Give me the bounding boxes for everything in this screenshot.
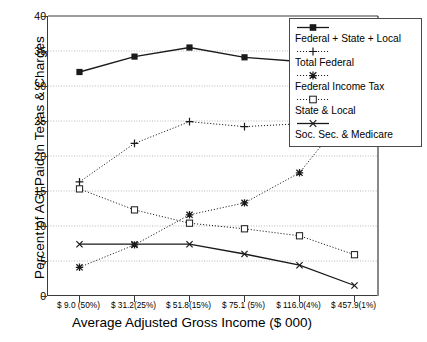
- legend-marker-filled-square-icon: [294, 22, 417, 33]
- y-axis-tick-mark: [41, 296, 47, 297]
- data-point-marker: [241, 54, 247, 60]
- legend-marker-plus-icon: [294, 46, 417, 57]
- legend-item-label: Soc. Sec. & Medicare: [294, 129, 417, 141]
- legend-item-label: Federal + State + Local: [294, 33, 417, 45]
- x-axis-tick-mark: [79, 296, 80, 302]
- data-point-marker: [76, 178, 84, 186]
- x-axis-tick-label: $ 457.9(1%): [331, 301, 376, 309]
- x-axis-tick-label: $ 51.8(15%): [166, 301, 211, 309]
- data-point-marker: [296, 169, 303, 176]
- data-point-marker: [296, 233, 302, 239]
- series-state-local: [76, 186, 357, 258]
- data-point-marker: [186, 211, 193, 218]
- x-axis-tick-label: $ 9.0 (50%): [57, 301, 100, 309]
- data-point-marker: [131, 54, 137, 60]
- x-axis-tick-label: $ 116.0(4%): [276, 301, 321, 309]
- x-axis-title: Average Adjusted Gross Income ($ 000): [0, 315, 384, 330]
- legend-item[interactable]: Federal + State + Local: [294, 22, 417, 45]
- data-point-marker: [76, 186, 82, 192]
- data-point-marker: [351, 252, 357, 258]
- data-point-marker: [309, 72, 317, 80]
- data-point-marker: [241, 123, 249, 131]
- legend-item[interactable]: Total Federal: [294, 46, 417, 69]
- x-axis-tick-mark: [299, 296, 300, 302]
- data-point-marker: [131, 140, 139, 148]
- series-line: [80, 244, 355, 285]
- data-point-marker: [351, 282, 357, 288]
- legend-item-label: Total Federal: [294, 57, 417, 69]
- legend-marker-cross-icon: [294, 118, 417, 129]
- data-point-marker: [310, 24, 317, 31]
- x-axis-tick-mark: [189, 296, 190, 302]
- legend-item-label: State & Local: [294, 105, 417, 117]
- data-point-marker: [186, 118, 194, 126]
- data-point-marker: [76, 69, 82, 75]
- series-soc-sec-medicare: [76, 241, 357, 289]
- legend-item[interactable]: State & Local: [294, 94, 417, 117]
- legend: Federal + State + LocalTotal FederalFede…: [289, 18, 422, 147]
- data-point-marker: [186, 220, 192, 226]
- data-point-marker: [186, 44, 192, 50]
- data-point-marker: [241, 199, 248, 206]
- legend-item[interactable]: Soc. Sec. & Medicare: [294, 118, 417, 141]
- legend-item[interactable]: Federal Income Tax: [294, 70, 417, 93]
- legend-item-label: Federal Income Tax: [294, 81, 417, 93]
- data-point-marker: [309, 47, 317, 55]
- chart-figure: Percent of AGI Paid in Texas & Charges 0…: [0, 0, 427, 342]
- x-axis-tick-label: $ 75.1 (5%): [222, 301, 265, 309]
- legend-marker-open-square-icon: [294, 94, 417, 105]
- data-point-marker: [310, 96, 317, 103]
- x-axis-tick-mark: [244, 296, 245, 302]
- data-point-marker: [241, 226, 247, 232]
- x-axis-tick-mark: [134, 296, 135, 302]
- data-point-marker: [76, 264, 83, 271]
- legend-marker-asterisk-icon: [294, 70, 417, 81]
- data-point-marker: [131, 207, 137, 213]
- x-axis-tick-label: $ 31.2(25%): [111, 301, 156, 309]
- x-axis-tick-mark: [354, 296, 355, 302]
